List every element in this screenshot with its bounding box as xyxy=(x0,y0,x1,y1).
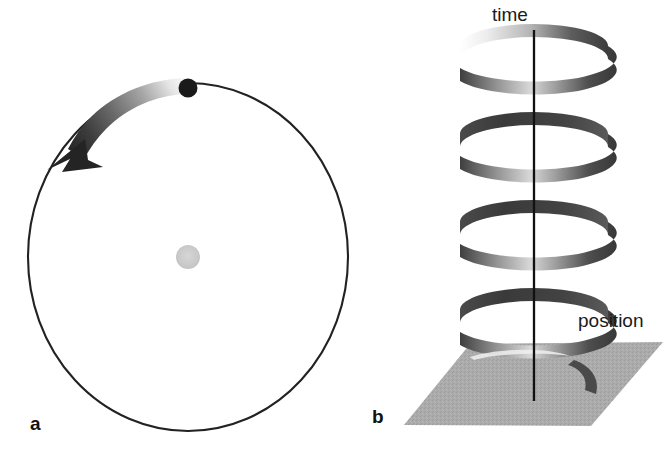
panel-a-label: a xyxy=(30,413,41,435)
helix-worldline xyxy=(460,24,617,394)
scientific-figure: time position a b xyxy=(0,0,670,457)
panel-b-graphics xyxy=(404,24,663,426)
figure-canvas xyxy=(0,0,670,457)
orbiting-body-dot xyxy=(179,79,198,98)
direction-of-motion-arrow xyxy=(47,78,187,172)
panel-a-graphics xyxy=(28,78,348,431)
panel-b-label: b xyxy=(372,406,384,428)
position-plane-label: position xyxy=(578,310,644,332)
time-axis-label: time xyxy=(492,4,528,26)
central-body-dot xyxy=(176,245,200,269)
